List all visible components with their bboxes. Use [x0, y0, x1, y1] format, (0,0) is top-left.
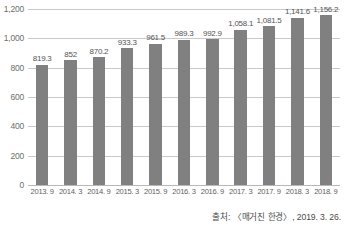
bar-slot: 989.3 [170, 9, 198, 185]
bar[interactable]: 933.3 [121, 48, 133, 185]
bar-slot: 1,141.6 [283, 9, 311, 185]
bar-series: 819.3852870.2933.3961.5989.3992.91,058.1… [28, 9, 340, 185]
x-tick-label: 2013. 9 [28, 187, 56, 196]
y-axis: 02004006008001,0001,200 [0, 9, 24, 185]
x-tick-label: 2015. 9 [141, 187, 169, 196]
bar-slot: 819.3 [28, 9, 56, 185]
x-axis: 2013. 92014. 32014. 92015. 32015. 92016.… [28, 187, 340, 196]
x-tick-label: 2015. 3 [113, 187, 141, 196]
x-tick-label: 2016. 9 [198, 187, 226, 196]
bar-value-label: 1,156.2 [313, 5, 338, 14]
plot-area: 819.3852870.2933.3961.5989.3992.91,058.1… [28, 9, 340, 185]
bar-slot: 1,058.1 [227, 9, 255, 185]
x-tick-label: 2018. 3 [283, 187, 311, 196]
bar-value-label: 1,081.5 [257, 16, 282, 25]
bar[interactable]: 1,081.5 [263, 26, 275, 185]
bar[interactable]: 1,141.6 [291, 18, 303, 185]
y-tick-label: 400 [10, 121, 24, 131]
bar-slot: 961.5 [141, 9, 169, 185]
y-tick-label: 1,000 [4, 33, 24, 43]
y-tick-label: 1,200 [4, 4, 24, 14]
bar-value-label: 961.5 [146, 33, 165, 42]
bar-slot: 852 [56, 9, 84, 185]
bar-chart-figure: 02004006008001,0001,200 819.3852870.2933… [0, 0, 347, 226]
bar-slot: 933.3 [113, 9, 141, 185]
bar-value-label: 989.3 [175, 29, 194, 38]
bar-value-label: 870.2 [90, 47, 109, 56]
bar-value-label: 852 [64, 50, 77, 59]
bar-value-label: 1,141.6 [285, 7, 310, 16]
bar-value-label: 992.9 [203, 29, 222, 38]
bar[interactable]: 1,058.1 [234, 30, 246, 185]
bar-slot: 992.9 [198, 9, 226, 185]
bar[interactable]: 961.5 [149, 44, 161, 185]
x-tick-label: 2017. 3 [227, 187, 255, 196]
x-tick-label: 2016. 3 [170, 187, 198, 196]
bar[interactable]: 819.3 [36, 65, 48, 185]
source-caption: 출처: 〈매거진 한경〉, 2019. 3. 26. [212, 210, 341, 222]
y-tick-label: 200 [10, 151, 24, 161]
bar-value-label: 1,058.1 [228, 19, 253, 28]
x-tick-label: 2017. 9 [255, 187, 283, 196]
gridline-0 [28, 185, 340, 186]
y-tick-label: 0 [19, 180, 24, 190]
bar[interactable]: 992.9 [206, 39, 218, 185]
y-tick-label: 600 [10, 92, 24, 102]
x-tick-label: 2014. 9 [85, 187, 113, 196]
bar-value-label: 933.3 [118, 38, 137, 47]
bar[interactable]: 870.2 [93, 57, 105, 185]
bar-slot: 1,081.5 [255, 9, 283, 185]
x-tick-label: 2014. 3 [56, 187, 84, 196]
y-tick-label: 800 [10, 63, 24, 73]
bar[interactable]: 852 [64, 60, 76, 185]
bar[interactable]: 1,156.2 [320, 15, 332, 185]
bar-value-label: 819.3 [33, 54, 52, 63]
bar-slot: 870.2 [85, 9, 113, 185]
bar-slot: 1,156.2 [312, 9, 340, 185]
bar[interactable]: 989.3 [178, 40, 190, 185]
x-tick-label: 2018. 9 [312, 187, 340, 196]
